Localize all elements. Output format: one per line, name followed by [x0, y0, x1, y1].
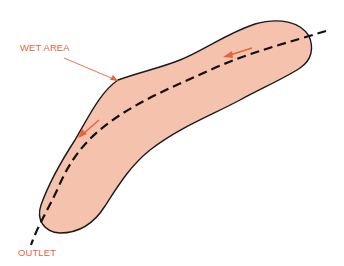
wet-area-label: WET AREA [20, 42, 70, 53]
wet-area-shape [40, 21, 312, 233]
leader-line [64, 58, 118, 81]
outlet-label: OUTLET [18, 247, 56, 258]
wet-area-diagram [0, 0, 344, 266]
